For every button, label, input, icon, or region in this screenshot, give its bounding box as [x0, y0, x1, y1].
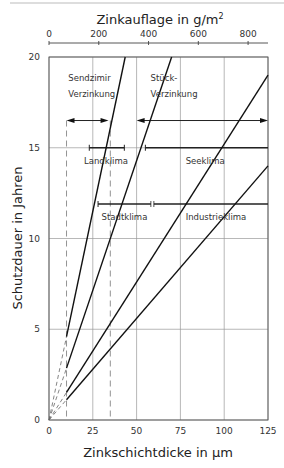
- annotation-label: Industrieklima: [186, 212, 247, 222]
- series-dashed-segment: [49, 368, 67, 420]
- top-tick-label: 0: [46, 29, 52, 39]
- x-axis-title: Zinkschichtdicke in µm: [83, 445, 233, 460]
- grid: [49, 57, 268, 420]
- x-tick-label: 0: [46, 426, 52, 436]
- range-break: [151, 201, 154, 207]
- top-tick-label: 800: [239, 29, 256, 39]
- annotation-label: Sendzimir: [68, 73, 111, 83]
- x-tick-label: 100: [216, 426, 233, 436]
- series-line-industrieklima: [67, 166, 268, 400]
- annotation-label: Seeklima: [186, 156, 225, 166]
- arrowhead-left-icon: [67, 118, 75, 123]
- annotation-label: Verzinkung: [151, 89, 198, 99]
- y-tick-label: 0: [34, 415, 40, 425]
- y-tick-label: 10: [29, 234, 41, 244]
- arrowhead-right-icon: [101, 118, 109, 123]
- y-axis-title: Schutzdauer in Jahren: [10, 166, 25, 309]
- series-line-seeklima: [67, 75, 268, 392]
- y-tick-label: 15: [29, 143, 40, 153]
- top-tick-label: 600: [190, 29, 207, 39]
- annotation-label: Stadtklima: [102, 212, 148, 222]
- y-tick-label: 20: [29, 52, 41, 62]
- top-tick-label: 400: [140, 29, 157, 39]
- y-tick-label: 5: [34, 324, 40, 334]
- x-tick-label: 125: [259, 426, 276, 436]
- series-dashed-segment: [49, 400, 67, 420]
- x-tick-label: 75: [175, 426, 186, 436]
- x-tick-label: 25: [87, 426, 98, 436]
- top-axis-title: Zinkauflage in g/m2: [96, 12, 223, 27]
- arrowhead-left-icon: [137, 118, 145, 123]
- annotation-label: Stück-: [151, 73, 178, 83]
- axis-ticks: 025507510012505101520: [29, 52, 277, 436]
- top-axis: 0200400600800: [46, 29, 268, 45]
- series-dashed-segment: [49, 337, 67, 420]
- annotation-label: Landklima: [84, 156, 128, 166]
- arrowhead-right-icon: [260, 118, 268, 123]
- x-tick-label: 50: [131, 426, 143, 436]
- annotation-label: Verzinkung: [68, 89, 115, 99]
- zinc-protection-chart: Zinkauflage in g/m2 0200400600800 Sendzi…: [0, 0, 284, 468]
- top-tick-label: 200: [90, 29, 107, 39]
